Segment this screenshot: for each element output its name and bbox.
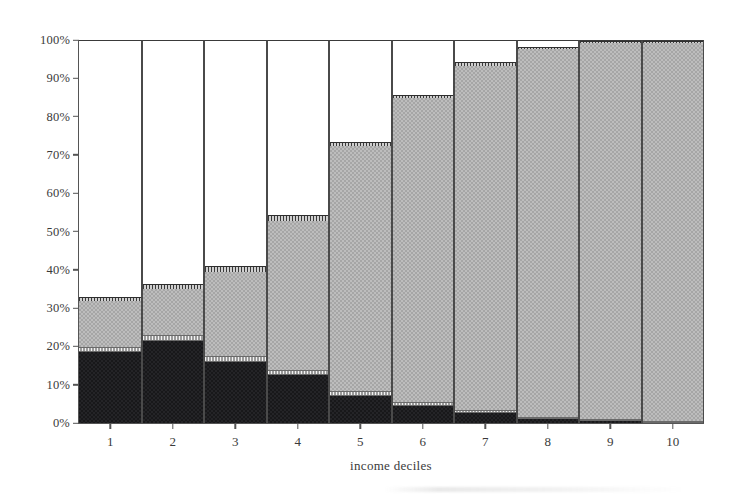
- y-axis-tick-90: 90%: [10, 71, 79, 86]
- y-axis-tick-70: 70%: [10, 147, 79, 162]
- bar-group: 12345678910: [79, 40, 704, 423]
- x-axis-tick-mark-4: [297, 423, 298, 429]
- x-axis-tick-label-8: 8: [545, 434, 552, 450]
- bar-segment-black-segment: [455, 413, 516, 423]
- bar-segment-gray-segment: [580, 43, 641, 419]
- x-axis-tick-mark-8: [547, 423, 548, 429]
- x-axis-tick-label-5: 5: [357, 434, 364, 450]
- bar-segment-black-segment: [393, 406, 454, 423]
- bar-segment-white-segment: [205, 41, 266, 266]
- y-axis-tick-80: 80%: [10, 109, 79, 124]
- x-axis-tick-label-1: 1: [107, 434, 114, 450]
- x-axis-tick-mark-6: [422, 423, 423, 429]
- bar-segment-white-segment: [268, 41, 329, 215]
- x-axis-tick-label-10: 10: [666, 434, 679, 450]
- y-axis-tick-30: 30%: [10, 301, 79, 316]
- bar-column-1[interactable]: 1: [79, 40, 142, 423]
- bar-segment-white-segment: [330, 41, 391, 142]
- bar-segment-black-segment: [79, 352, 141, 423]
- bar-column-9[interactable]: 9: [579, 40, 642, 423]
- bar-column-4[interactable]: 4: [267, 40, 330, 423]
- bar-segment-black-segment: [268, 375, 329, 423]
- scan-artifact: [384, 487, 684, 492]
- bar-column-5[interactable]: 5: [329, 40, 392, 423]
- bar-segment-gray-segment: [79, 301, 141, 347]
- stacked-bar[interactable]: [204, 40, 267, 423]
- bar-segment-gray-segment: [455, 66, 516, 411]
- bar-segment-white-segment: [143, 41, 204, 284]
- y-axis-tick-20: 20%: [10, 339, 79, 354]
- stacked-bar[interactable]: [329, 40, 392, 423]
- bar-segment-white-segment: [79, 41, 141, 297]
- stacked-bar[interactable]: [267, 40, 330, 423]
- y-axis-tick-100: 100%: [10, 33, 79, 48]
- y-axis-tick-0: 0%: [10, 416, 79, 431]
- y-axis-tick-10: 10%: [10, 377, 79, 392]
- bar-segment-gray-segment: [393, 98, 454, 402]
- bar-column-6[interactable]: 6: [392, 40, 455, 423]
- stacked-bar[interactable]: [79, 40, 142, 423]
- bar-column-3[interactable]: 3: [204, 40, 267, 423]
- bar-column-2[interactable]: 2: [142, 40, 205, 423]
- x-axis-tick-mark-3: [235, 423, 236, 429]
- x-axis-tick-label-9: 9: [607, 434, 614, 450]
- stacked-bar[interactable]: [517, 40, 580, 423]
- x-axis-tick-mark-9: [610, 423, 611, 429]
- y-axis-tick-50: 50%: [10, 224, 79, 239]
- bar-segment-gray-segment: [205, 272, 266, 356]
- bar-segment-black-segment: [143, 341, 204, 423]
- bar-column-10[interactable]: 10: [642, 40, 705, 423]
- stacked-bar[interactable]: [142, 40, 205, 423]
- stacked-bar-chart: 0% 10% 20% 30% 40% 50% 60% 70% 80% 90% 1…: [0, 0, 745, 501]
- bar-segment-gray-segment: [268, 221, 329, 370]
- bar-segment-white-segment: [455, 41, 516, 62]
- stacked-bar[interactable]: [579, 40, 642, 423]
- plot-area: 0% 10% 20% 30% 40% 50% 60% 70% 80% 90% 1…: [78, 40, 704, 424]
- stacked-bar[interactable]: [642, 40, 705, 423]
- y-axis-tick-40: 40%: [10, 262, 79, 277]
- bar-segment-white-segment: [393, 41, 454, 94]
- bar-column-7[interactable]: 7: [454, 40, 517, 423]
- x-axis-tick-label-4: 4: [295, 434, 302, 450]
- bar-segment-gray-segment: [643, 43, 704, 421]
- x-axis-tick-label-7: 7: [482, 434, 489, 450]
- x-axis-tick-mark-7: [485, 423, 486, 429]
- bar-segment-gray-segment: [143, 289, 204, 335]
- x-axis-tick-mark-10: [672, 423, 673, 429]
- y-axis-tick-60: 60%: [10, 186, 79, 201]
- bar-segment-gray-segment: [518, 49, 579, 418]
- x-axis-tick-label-6: 6: [420, 434, 427, 450]
- stacked-bar[interactable]: [392, 40, 455, 423]
- bar-segment-black-segment: [330, 396, 391, 423]
- x-axis-tick-mark-2: [172, 423, 173, 429]
- bar-segment-black-segment: [205, 362, 266, 423]
- stacked-bar[interactable]: [454, 40, 517, 423]
- x-axis-tick-mark-5: [360, 423, 361, 429]
- x-axis-title: income deciles: [78, 458, 704, 474]
- bar-segment-gray-segment: [330, 146, 391, 390]
- x-axis-tick-mark-1: [110, 423, 111, 429]
- x-axis-tick-label-3: 3: [232, 434, 239, 450]
- bar-column-8[interactable]: 8: [517, 40, 580, 423]
- x-axis-tick-label-2: 2: [170, 434, 177, 450]
